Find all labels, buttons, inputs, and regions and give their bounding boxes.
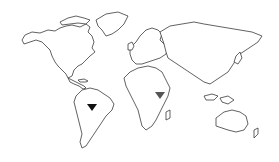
world-map — [0, 0, 279, 162]
greenland-outline — [96, 12, 128, 36]
australia-outline — [216, 110, 248, 132]
new-zealand-outline — [254, 128, 258, 138]
indonesia-outline — [220, 96, 234, 104]
brazil-marker-icon — [87, 104, 97, 111]
south-america-outline — [74, 88, 114, 148]
world-map-outline — [0, 0, 279, 162]
ethiopia-marker-icon — [155, 92, 165, 99]
southeast-asia-islands-outline — [204, 94, 218, 100]
caribbean-outline — [78, 79, 88, 82]
asia-outline — [160, 22, 262, 84]
north-america-outline — [22, 24, 95, 78]
madagascar-outline — [166, 110, 170, 120]
arctic-islands-outline — [60, 16, 90, 25]
